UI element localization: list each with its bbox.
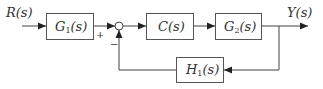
summing-junction xyxy=(115,22,123,30)
svg-text:C(s): C(s) xyxy=(158,19,185,34)
svg-text:H1(s): H1(s) xyxy=(185,62,219,78)
arrow-head-icon xyxy=(207,23,215,30)
output-label: Y(s) xyxy=(287,5,312,20)
block-g2: G2(s) xyxy=(216,14,262,40)
block-diagram: R(s) G1(s) + − C(s) G2(s) Y(s) H1(s) xyxy=(0,0,323,89)
plus-sign: + xyxy=(96,29,104,40)
block-g1: G1(s) xyxy=(47,14,94,40)
block-h1: H1(s) xyxy=(177,58,224,83)
input-label: R(s) xyxy=(5,5,33,20)
svg-text:G1(s): G1(s) xyxy=(55,19,87,35)
arrow-head-icon xyxy=(107,23,115,30)
block-c: C(s) xyxy=(147,14,194,40)
arrow-head-icon xyxy=(116,30,123,38)
arrow-head-icon xyxy=(38,23,46,30)
minus-sign: − xyxy=(110,39,118,50)
svg-text:G2(s): G2(s) xyxy=(224,19,256,35)
arrow-head-icon xyxy=(300,23,308,30)
arrow-head-icon xyxy=(224,67,232,74)
arrow-head-icon xyxy=(138,23,146,30)
